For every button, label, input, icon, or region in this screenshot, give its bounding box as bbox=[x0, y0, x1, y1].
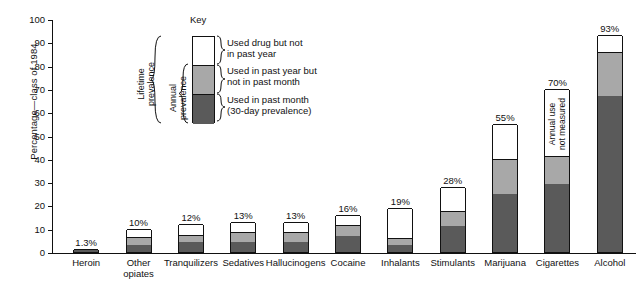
bar-value-label: 13% bbox=[266, 210, 326, 221]
bar-value-label: 93% bbox=[580, 23, 640, 34]
y-tick-mark bbox=[48, 160, 52, 161]
segment-past-month bbox=[493, 194, 517, 252]
segment-lifetime-not-year bbox=[231, 222, 255, 232]
key-entry-0: Used drug but not in past year bbox=[227, 38, 303, 59]
segment-lifetime-not-year bbox=[388, 208, 412, 238]
segment-past-year-not-month bbox=[284, 232, 308, 241]
bar-marijuana[interactable] bbox=[492, 125, 518, 253]
bar-value-label: 28% bbox=[423, 175, 483, 186]
annual-prevalence-label: Annual prevalence bbox=[168, 54, 188, 142]
y-tick-label: 90 bbox=[23, 38, 45, 47]
bar-heroin[interactable] bbox=[73, 250, 99, 253]
segment-lifetime-not-year bbox=[284, 222, 308, 232]
key-entry-2-line2: (30-day prevalence) bbox=[227, 105, 312, 116]
segment-lifetime-not-year bbox=[336, 215, 360, 225]
key-entry-1-line1: Used in past year but bbox=[227, 65, 317, 76]
key-swatch-box bbox=[192, 36, 215, 123]
bar-value-label: 1.3% bbox=[56, 237, 116, 248]
y-tick-label: 70 bbox=[23, 85, 45, 94]
cigarettes-annual-use-note: Annual usenot measured bbox=[547, 79, 567, 169]
bar-value-label: 55% bbox=[475, 112, 535, 123]
cigarettes-note-line2: not measured bbox=[557, 98, 567, 150]
y-tick-mark bbox=[48, 137, 52, 138]
cat-label-line1: Alcohol bbox=[594, 257, 625, 268]
key-title: Key bbox=[190, 14, 206, 25]
cat-label-line2: opiates bbox=[97, 268, 181, 279]
annual-prevalence-line1: Annual bbox=[168, 84, 178, 112]
key-entry-1: Used in past year but not in past month bbox=[227, 66, 317, 87]
bar-sedatives[interactable] bbox=[230, 223, 256, 253]
bar-value-label: 12% bbox=[161, 212, 221, 223]
y-tick-label: 0 bbox=[23, 248, 45, 257]
segment-past-month bbox=[74, 250, 98, 252]
key-swatch-month bbox=[193, 94, 214, 124]
key-entry-brackets bbox=[216, 34, 226, 126]
cat-label-line1: Other bbox=[127, 257, 151, 268]
x-axis-line bbox=[52, 253, 636, 254]
segment-past-year-not-month bbox=[598, 52, 622, 96]
y-tick-mark bbox=[48, 206, 52, 207]
key-swatch-annual bbox=[193, 65, 214, 94]
bar-other-opiates[interactable] bbox=[126, 230, 152, 253]
key-entry-2: Used in past month (30-day prevalence) bbox=[227, 95, 312, 116]
segment-past-year-not-month bbox=[493, 159, 517, 194]
segment-past-month bbox=[336, 236, 360, 252]
segment-past-month bbox=[441, 226, 465, 252]
lifetime-prevalence-label: Lifetime prevalence bbox=[136, 38, 156, 130]
y-tick-label: 60 bbox=[23, 108, 45, 117]
bar-hallucinogens[interactable] bbox=[283, 223, 309, 253]
y-tick-label: 30 bbox=[23, 178, 45, 187]
segment-past-year-not-month bbox=[127, 237, 151, 245]
segment-past-year-not-month bbox=[441, 211, 465, 226]
y-axis-line bbox=[52, 20, 53, 254]
y-tick-mark bbox=[48, 113, 52, 114]
y-tick-label: 100 bbox=[23, 15, 45, 24]
segment-past-month bbox=[598, 96, 622, 252]
y-tick-mark bbox=[48, 67, 52, 68]
segment-past-year-not-month bbox=[231, 232, 255, 241]
segment-lifetime-not-year bbox=[127, 229, 151, 237]
y-tick-label: 10 bbox=[23, 225, 45, 234]
segment-past-month bbox=[284, 242, 308, 252]
y-tick-mark bbox=[48, 230, 52, 231]
y-tick-mark bbox=[48, 183, 52, 184]
segment-past-year-not-month bbox=[336, 225, 360, 235]
y-tick-label: 50 bbox=[23, 132, 45, 141]
segment-past-month bbox=[179, 242, 203, 252]
bar-alcohol[interactable] bbox=[597, 36, 623, 253]
segment-past-year-not-month bbox=[74, 249, 98, 250]
bar-value-label: 10% bbox=[109, 217, 169, 228]
segment-lifetime-not-year bbox=[179, 224, 203, 234]
segment-past-month bbox=[231, 242, 255, 252]
segment-past-year-not-month bbox=[388, 238, 412, 245]
bar-value-label: 16% bbox=[318, 203, 378, 214]
key-entry-0-line1: Used drug but not bbox=[227, 37, 303, 48]
cigarettes-note-line1: Annual use bbox=[547, 102, 557, 145]
stacked-bar-chart: Percentage—class of 1984 100908070605040… bbox=[0, 0, 641, 302]
key-entry-1-line2: not in past month bbox=[227, 76, 300, 87]
segment-past-month bbox=[388, 245, 412, 252]
key-entry-2-line1: Used in past month bbox=[227, 94, 309, 105]
y-tick-mark bbox=[48, 20, 52, 21]
bar-cocaine[interactable] bbox=[335, 216, 361, 253]
segment-past-month bbox=[127, 245, 151, 252]
bar-value-label: 19% bbox=[370, 196, 430, 207]
lifetime-prevalence-line2: prevalence bbox=[146, 62, 156, 106]
bar-value-label: 13% bbox=[213, 210, 273, 221]
y-tick-mark bbox=[48, 253, 52, 254]
bar-tranquilizers[interactable] bbox=[178, 225, 204, 253]
y-tick-label: 40 bbox=[23, 155, 45, 164]
y-tick-label: 20 bbox=[23, 201, 45, 210]
bar-stimulants[interactable] bbox=[440, 188, 466, 253]
annual-prevalence-line2: prevalence bbox=[178, 76, 188, 120]
lifetime-prevalence-line1: Lifetime bbox=[136, 68, 146, 100]
x-axis-label-alcohol: Alcohol bbox=[568, 257, 641, 268]
y-tick-mark bbox=[48, 43, 52, 44]
key-entry-0-line2: in past year bbox=[227, 48, 276, 59]
segment-lifetime-not-year bbox=[598, 35, 622, 51]
y-tick-label: 80 bbox=[23, 62, 45, 71]
segment-past-month bbox=[545, 184, 569, 252]
y-tick-mark bbox=[48, 90, 52, 91]
key-swatch-lifetime bbox=[193, 37, 214, 65]
bar-inhalants[interactable] bbox=[387, 209, 413, 253]
